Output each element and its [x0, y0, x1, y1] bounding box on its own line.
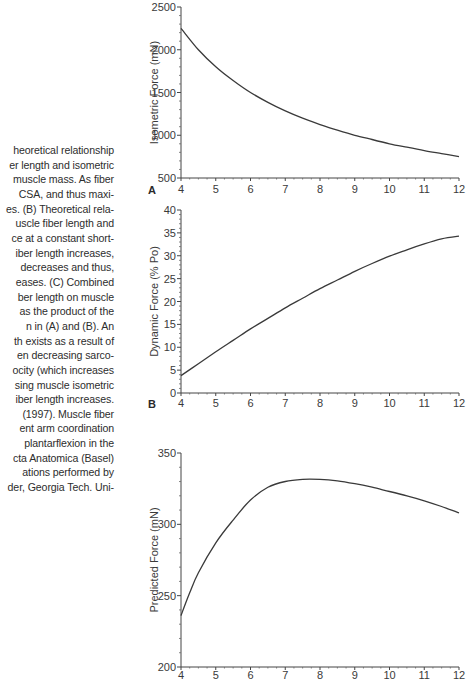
chart-panel-a: 5001000150020002500456789101112Isometric… [148, 1, 465, 196]
x-tick-label: 12 [453, 183, 465, 195]
y-axis-title: Isometric Force (mN) [148, 41, 160, 144]
y-tick-label: 350 [158, 447, 176, 459]
x-tick-label: 12 [453, 397, 465, 409]
y-axis-title: Predicted Force (mN) [148, 507, 160, 612]
y-tick-label: 20 [164, 296, 176, 308]
y-tick-label: 25 [164, 273, 176, 285]
y-tick-label: 15 [164, 318, 176, 330]
x-tick-label: 9 [352, 397, 358, 409]
x-tick-label: 9 [352, 183, 358, 195]
x-tick-label: 11 [419, 183, 430, 195]
y-tick-label: 40 [164, 204, 176, 216]
data-line [181, 28, 459, 156]
x-tick-label: 7 [282, 669, 288, 681]
x-tick-label: 4 [178, 183, 184, 195]
x-tick-label: 11 [419, 397, 430, 409]
x-tick-label: 4 [178, 669, 184, 681]
data-line [181, 236, 459, 376]
x-tick-label: 10 [383, 183, 395, 195]
y-tick-label: 500 [158, 172, 176, 184]
chart-panel-b: 0510152025303540456789101112Dynamic Forc… [148, 204, 465, 410]
x-tick-label: 5 [213, 397, 219, 409]
x-tick-label: 6 [247, 183, 253, 195]
y-tick-label: 200 [158, 661, 176, 673]
x-tick-label: 4 [178, 397, 184, 409]
y-tick-label: 35 [164, 227, 176, 239]
x-tick-label: 11 [419, 669, 430, 681]
panel-label: A [148, 184, 156, 196]
x-tick-label: 8 [317, 397, 323, 409]
x-tick-label: 10 [383, 397, 395, 409]
y-tick-label: 5 [170, 364, 176, 376]
x-tick-label: 6 [247, 397, 253, 409]
panel-label: B [148, 398, 156, 410]
x-tick-label: 8 [317, 183, 323, 195]
x-tick-label: 10 [383, 669, 395, 681]
x-tick-label: 5 [213, 669, 219, 681]
x-tick-label: 5 [213, 183, 219, 195]
x-tick-label: 8 [317, 669, 323, 681]
chart-panel-c: 200250300350456789101112Predicted Force … [148, 447, 465, 681]
y-tick-label: 2500 [152, 1, 176, 13]
x-tick-label: 9 [352, 669, 358, 681]
data-line [181, 479, 459, 615]
x-tick-label: 7 [282, 397, 288, 409]
y-tick-label: 10 [164, 341, 176, 353]
y-axis-title: Dynamic Force (% Po) [148, 246, 160, 357]
figure-charts: 5001000150020002500456789101112Isometric… [0, 0, 468, 681]
y-tick-label: 30 [164, 250, 176, 262]
x-tick-label: 12 [453, 669, 465, 681]
x-tick-label: 7 [282, 183, 288, 195]
y-tick-label: 300 [158, 518, 176, 530]
x-tick-label: 6 [247, 669, 253, 681]
y-tick-label: 0 [170, 387, 176, 399]
y-tick-label: 250 [158, 590, 176, 602]
